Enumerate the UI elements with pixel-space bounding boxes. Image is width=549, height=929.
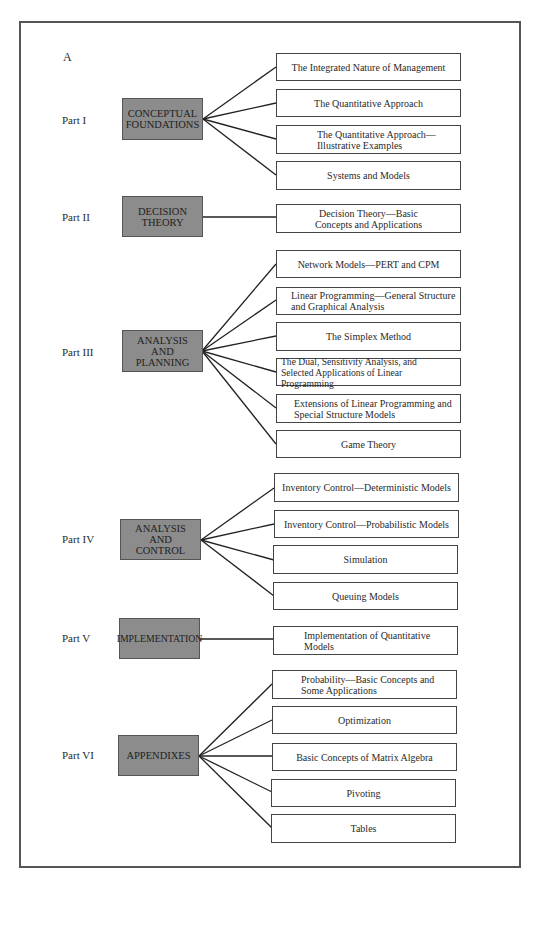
topic-box: Decision Theory—Basic Concepts and Appli…	[276, 204, 461, 233]
part-2-box: DECISION THEORY	[122, 196, 203, 237]
part-6-label: Part VI	[62, 749, 94, 761]
part-1-label: Part I	[62, 114, 86, 126]
part-1-box: CONCEPTUAL FOUNDATIONS	[122, 98, 203, 140]
topic-box: Tables	[271, 814, 456, 843]
topic-box: Pivoting	[271, 779, 456, 807]
topic-box: The Quantitative Approach— Illustrative …	[276, 125, 461, 154]
topic-box: The Quantitative Approach	[276, 89, 461, 117]
part-4-label: Part IV	[62, 533, 94, 545]
topic-box: Systems and Models	[276, 161, 461, 190]
topic-box: Extensions of Linear Programming and Spe…	[276, 394, 461, 423]
topic-box: The Simplex Method	[276, 322, 461, 351]
topic-box: Queuing Models	[273, 582, 458, 610]
topic-box: Network Models—PERT and CPM	[276, 250, 461, 278]
part-6-box: APPENDIXES	[118, 735, 199, 776]
topic-box: The Integrated Nature of Management	[276, 53, 461, 81]
topic-box: Linear Programming—General Structure and…	[276, 287, 461, 315]
part-3-label: Part III	[62, 346, 93, 358]
topic-box: Simulation	[273, 545, 458, 574]
topic-box: Basic Concepts of Matrix Algebra	[272, 743, 457, 771]
topic-box: Inventory Control—Probabilistic Models	[274, 510, 459, 538]
part-5-box: IMPLEMENTATION	[119, 618, 200, 659]
part-2-label: Part II	[62, 211, 90, 223]
topic-box: The Dual, Sensitivity Analysis, and Sele…	[276, 358, 461, 386]
part-5-label: Part V	[62, 632, 90, 644]
topic-box: Game Theory	[276, 430, 461, 458]
topic-box: Probability—Basic Concepts and Some Appl…	[272, 670, 457, 699]
topic-box: Optimization	[272, 706, 457, 734]
part-4-box: ANALYSIS AND CONTROL	[120, 519, 201, 560]
topic-box: Implementation of Quantitative Models	[273, 626, 458, 655]
topic-box: Inventory Control—Deterministic Models	[274, 473, 459, 502]
part-3-box: ANALYSIS AND PLANNING	[122, 330, 203, 372]
